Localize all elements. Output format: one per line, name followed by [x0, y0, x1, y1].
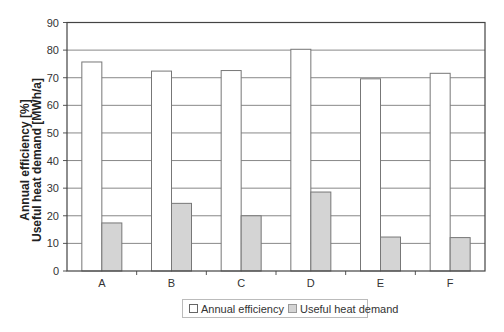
- bar-annual-efficiency: [291, 49, 311, 271]
- legend-swatch-white: [189, 304, 198, 313]
- bar-useful-heat-demand: [172, 203, 192, 271]
- x-tick-label: F: [447, 277, 454, 289]
- legend-label: Annual efficiency: [201, 303, 284, 315]
- y-tick-labels: 0102030405060708090: [47, 17, 59, 278]
- legend: Annual efficiency Useful heat demand: [182, 299, 368, 318]
- y-tick-label: 30: [47, 182, 59, 194]
- bar-annual-efficiency: [152, 71, 172, 271]
- x-tick-label: E: [377, 277, 384, 289]
- legend-item-annual-efficiency: Annual efficiency: [189, 303, 284, 315]
- x-tick-label: B: [168, 277, 175, 289]
- gridlines: [67, 50, 485, 243]
- bar-useful-heat-demand: [102, 223, 122, 271]
- axes: [63, 23, 485, 276]
- bar-useful-heat-demand: [241, 216, 261, 271]
- y-tick-label: 20: [47, 210, 59, 222]
- y-tick-label: 40: [47, 155, 59, 167]
- bar-annual-efficiency: [430, 73, 450, 271]
- y-tick-label: 70: [47, 72, 59, 84]
- legend-swatch-grey: [288, 304, 297, 313]
- x-tick-label: C: [237, 277, 245, 289]
- y-tick-label: 0: [53, 265, 59, 277]
- bar-useful-heat-demand: [311, 192, 331, 271]
- bar-annual-efficiency: [221, 71, 241, 271]
- y-tick-label: 60: [47, 99, 59, 111]
- y-tick-label: 10: [47, 237, 59, 249]
- bar-useful-heat-demand: [381, 237, 401, 271]
- x-tick-label: D: [307, 277, 315, 289]
- x-tick-labels: ABCDEF: [98, 277, 454, 289]
- y-tick-label: 80: [47, 44, 59, 56]
- bar-annual-efficiency: [361, 79, 381, 271]
- bar-annual-efficiency: [82, 62, 102, 271]
- bar-chart: 0102030405060708090 ABCDEF Annual effici…: [0, 0, 504, 332]
- y-tick-label: 90: [47, 17, 59, 29]
- y-axis-label-line2: Useful heat demand [MWh/a]: [30, 78, 44, 242]
- x-tick-label: A: [98, 277, 106, 289]
- plot-frame: [67, 23, 485, 272]
- y-tick-label: 50: [47, 127, 59, 139]
- legend-item-useful-heat-demand: Useful heat demand: [288, 303, 398, 315]
- legend-label: Useful heat demand: [300, 303, 398, 315]
- bar-useful-heat-demand: [450, 238, 470, 271]
